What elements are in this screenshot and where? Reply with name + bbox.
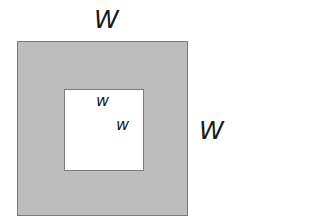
outer-width-label: W bbox=[94, 7, 119, 32]
inner-height-label: w bbox=[116, 117, 129, 133]
inner-width-label: w bbox=[96, 93, 109, 109]
outer-height-label: W bbox=[199, 118, 224, 143]
